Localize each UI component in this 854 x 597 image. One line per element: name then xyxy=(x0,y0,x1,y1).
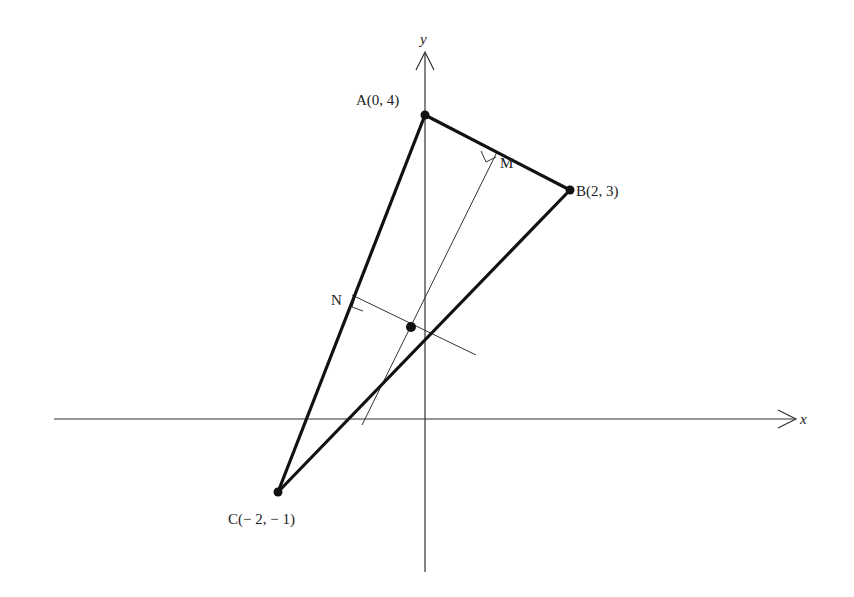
label-n: N xyxy=(331,292,342,308)
label-b: B(2, 3) xyxy=(576,183,619,200)
circumcenter-point xyxy=(406,322,416,332)
side-ca xyxy=(278,115,425,492)
point-b xyxy=(566,186,575,195)
label-a: A(0, 4) xyxy=(356,92,399,109)
y-axis-label: y xyxy=(418,31,427,47)
right-angle-mark-m xyxy=(481,151,496,162)
label-m: M xyxy=(500,155,513,171)
point-a xyxy=(421,111,430,120)
label-c: C(− 2, − 1) xyxy=(228,511,295,528)
x-axis-label: x xyxy=(799,411,807,427)
side-ab xyxy=(425,115,570,190)
point-c xyxy=(274,488,283,497)
side-bc xyxy=(278,190,570,492)
diagram-canvas: x y A(0, 4) B(2, 3) C(− 2, − 1) M N xyxy=(0,0,854,597)
